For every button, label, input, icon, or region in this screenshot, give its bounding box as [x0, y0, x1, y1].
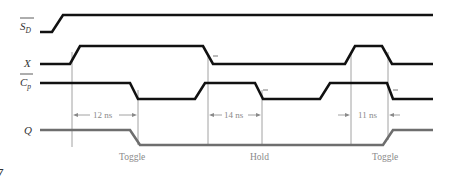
svg-text:12 ns: 12 ns — [93, 110, 113, 120]
timing-diagram: SD X Cp Q 12 ns 14 ns — [0, 0, 450, 178]
svg-text:14 ns: 14 ns — [224, 110, 244, 120]
guide-lines — [72, 52, 388, 147]
waveform-sd — [40, 15, 433, 32]
signal-label-cp: Cp — [20, 74, 33, 91]
signal-label-sd: SD — [20, 18, 34, 35]
waveform-x — [40, 46, 433, 64]
measurement-14ns: 14 ns — [209, 110, 261, 120]
waveform-q — [40, 130, 433, 145]
figure-number-fragment: 7 — [0, 167, 4, 178]
svg-text:X: X — [23, 57, 32, 69]
annotation-toggle-2: Toggle — [372, 152, 398, 162]
annotation-hold: Hold — [250, 152, 269, 162]
svg-text:Q: Q — [24, 124, 32, 136]
measurement-12ns: 12 ns — [73, 110, 137, 120]
transition-ticks — [213, 56, 398, 90]
svg-text:11 ns: 11 ns — [358, 110, 377, 120]
svg-text:Cp: Cp — [20, 76, 31, 91]
signal-label-q: Q — [24, 124, 32, 136]
measurement-11ns: 11 ns — [338, 110, 400, 120]
annotation-toggle-1: Toggle — [119, 152, 145, 162]
signal-label-x: X — [23, 57, 32, 69]
svg-text:SD: SD — [20, 20, 32, 35]
waveform-cp — [40, 83, 433, 99]
